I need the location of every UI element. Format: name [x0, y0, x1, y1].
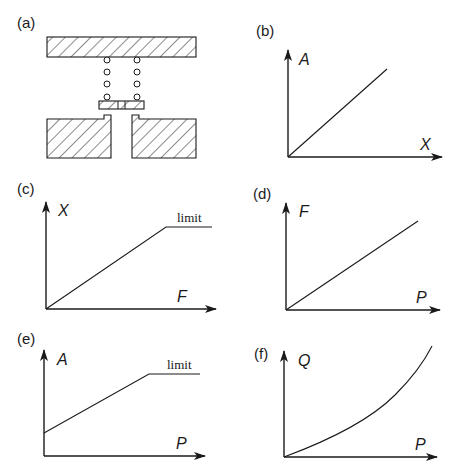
top-plate: [47, 37, 196, 57]
panel-d: (d) F P: [253, 185, 440, 310]
panel-label-a: (a): [17, 14, 35, 31]
right-bead-column: [134, 57, 140, 100]
panel-label-c: (c): [17, 180, 35, 197]
right-block: [132, 115, 196, 158]
left-block: [47, 115, 111, 158]
xlabel-e: P: [176, 435, 187, 452]
xlabel-c: F: [177, 288, 188, 305]
line-c: [46, 227, 212, 309]
limit-label-e: limit: [167, 357, 192, 372]
panel-label-e: (e): [17, 330, 35, 347]
line-d: [286, 221, 418, 310]
left-bead-column: [104, 57, 110, 100]
panel-b: (b) A X: [256, 22, 442, 157]
ylabel-e: A: [56, 351, 68, 368]
panel-c: (c) X F limit: [17, 180, 216, 309]
panel-f: (f) Q P: [254, 345, 437, 457]
figure-canvas: (a) (b) A X (c) X F: [0, 0, 457, 474]
panel-label-f: (f): [254, 345, 268, 362]
xlabel-f: P: [415, 436, 426, 453]
ylabel-f: Q: [298, 352, 310, 369]
limit-label-c: limit: [177, 210, 202, 225]
panel-e: (e) A P limit: [17, 330, 205, 456]
ylabel-c: X: [57, 202, 70, 219]
panel-a: (a): [17, 14, 196, 158]
small-plate: [99, 101, 144, 109]
xlabel-b: X: [419, 136, 432, 153]
xlabel-d: P: [416, 289, 427, 306]
line-b: [288, 69, 387, 157]
ylabel-d: F: [299, 203, 310, 220]
ylabel-b: A: [298, 51, 310, 68]
panel-label-d: (d): [253, 185, 271, 202]
line-e: [44, 374, 200, 433]
panel-label-b: (b): [256, 22, 274, 39]
